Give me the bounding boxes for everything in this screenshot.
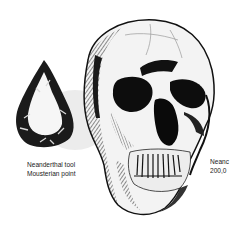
neanderthal-skull [84, 20, 214, 215]
skull-caption: Neanc 200,0 [210, 157, 229, 175]
tool-caption-line1: Neanderthal tool [27, 160, 76, 169]
skull-caption-line1: Neanc [210, 157, 229, 166]
tool-caption-line2: Mousterian point [27, 169, 76, 178]
illustration-art [0, 0, 233, 231]
skull-caption-line2: 200,0 [210, 166, 229, 175]
mousterian-point-tool [16, 60, 74, 147]
tool-caption: Neanderthal tool Mousterian point [27, 160, 76, 178]
illustration: Neanderthal tool Mousterian point Neanc … [0, 0, 233, 231]
